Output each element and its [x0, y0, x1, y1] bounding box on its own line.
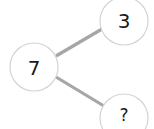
whole-node: 7 [10, 43, 58, 91]
part-node-bottom[interactable]: ? [100, 94, 148, 129]
edge-whole-to-part-bottom [56, 77, 104, 106]
part-top-label: 3 [118, 9, 131, 33]
part-bottom-unknown-label: ? [119, 105, 128, 125]
whole-label: 7 [28, 56, 41, 80]
number-bond-diagram: 7 3 ? [0, 0, 154, 129]
part-node-top: 3 [100, 0, 148, 45]
edge-whole-to-part-top [56, 29, 102, 56]
